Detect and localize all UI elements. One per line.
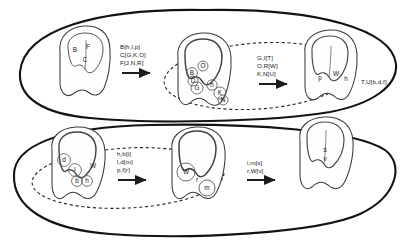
tooth-stage-3 [305,30,357,100]
transition-line: K,N[U] [257,70,278,78]
transition-line: O,R[W] [257,62,278,70]
cusp-label: G [195,84,200,91]
transition-1-labels: B[h,l,p] C[G,K,O] F[J,N,R] [120,43,146,68]
transition-line: B[h,l,p] [120,43,146,51]
transition-line: G,I[T] [257,54,278,62]
cusp-label: s [323,146,326,153]
tooth-stage-5 [172,127,225,199]
cusp-label: K [218,89,223,96]
tooth-stage-2 [178,33,231,105]
transition-line: l,d[m] [117,158,133,166]
transition-5-labels: i,m[s] r,W[v] [247,159,263,175]
transition-line: h,b[i] [117,150,133,158]
cusp-label: d [62,156,66,163]
cusp-label: O [201,62,206,69]
transition-line: C[G,K,O] [120,51,146,59]
cusp-label: h [344,75,348,82]
tooth-stage-4 [52,127,105,199]
diagram-svg: B F C B O D G h K N p W h d l W b h W r … [0,0,414,245]
transition-3-labels: T,U[b,d,f] [361,78,387,86]
cusp-label: p [318,74,322,82]
transition-line: r,W[v] [247,167,263,175]
transition-line: F[J,N,R] [120,59,146,67]
cusp-label: W [90,162,97,169]
cusp-label: h [85,177,89,184]
cusp-label: h [210,81,214,88]
cusp-label: B [73,46,77,53]
cusp-label: C [83,56,88,63]
cusp-label: m [204,184,209,191]
cusp-label: F [86,43,90,50]
cusp-label: l [74,166,75,173]
cusp-label: W [183,168,190,175]
cusp-label: b [75,177,79,184]
transition-line: T,U[b,d,f] [361,78,387,86]
transition-2-labels: G,I[T] O,R[W] K,N[U] [257,54,278,79]
cusp-label: W [333,70,340,77]
transition-line: p,f[r] [117,166,133,174]
cusp-label: B [190,69,194,76]
cusp-label: D [191,77,196,84]
cusp-label: N [221,96,226,103]
transition-4-labels: h,b[i] l,d[m] p,f[r] [117,150,133,175]
transition-line: i,m[s] [247,159,263,167]
figure-canvas: B F C B O D G h K N p W h d l W b h W r … [0,0,414,245]
